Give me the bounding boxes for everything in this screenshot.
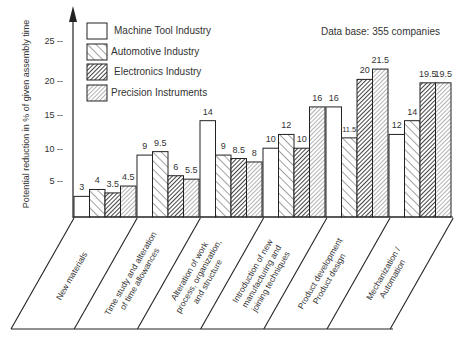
legend-swatch [87, 64, 107, 80]
value-label: 12 [392, 120, 402, 130]
category-label: Product developmentProduct design [296, 236, 354, 316]
bar-group: 1498.58 [200, 107, 262, 217]
value-label: 9 [221, 141, 226, 151]
bar [389, 134, 405, 217]
bar-group: 10121016 [263, 93, 325, 217]
bar [153, 152, 169, 217]
value-label: 4 [95, 175, 100, 185]
bar [168, 176, 184, 217]
bar [294, 148, 310, 217]
bar [216, 155, 232, 217]
bar [184, 179, 200, 217]
y-tick-label: 20 -- [44, 76, 63, 86]
value-label: 12 [281, 120, 291, 130]
legend: Machine Tool IndustryAutomotive Industry… [87, 23, 211, 101]
value-label: 10 [266, 134, 276, 144]
value-label: 16 [329, 93, 339, 103]
y-axis: 5 --10 --15 --20 --25 -- [44, 6, 77, 218]
category-label: Mechanization /Automation [364, 245, 412, 307]
bar [121, 186, 137, 217]
bar [405, 121, 421, 217]
bar [279, 134, 295, 217]
value-label: 5.5 [185, 165, 198, 175]
y-tick-label: 15 -- [44, 110, 63, 120]
bar-groups: 343.54.599.565.51498.58101210161611.5202… [73, 55, 453, 217]
bar [247, 162, 263, 217]
value-label: 8.5 [232, 145, 245, 155]
bar [373, 69, 389, 217]
bar [310, 107, 326, 217]
value-label: 21.5 [371, 55, 389, 65]
bar-group: 121419.519.5 [389, 69, 452, 217]
value-label: 6 [173, 162, 178, 172]
value-label: 4.5 [122, 172, 135, 182]
band-divider [11, 218, 74, 329]
bar-group: 99.565.5 [137, 138, 199, 217]
legend-swatch [87, 23, 107, 39]
bar [357, 79, 373, 217]
value-label: 9.5 [154, 138, 167, 148]
category-label: Introduction of newmanufacturing andjoin… [230, 237, 293, 315]
bar [200, 121, 216, 217]
category-band: New materialsTime study and alterationof… [11, 218, 453, 329]
legend-label: Machine Tool Industry [114, 25, 211, 36]
legend-label: Automotive Industry [111, 46, 199, 57]
legend-item: Machine Tool Industry [87, 23, 211, 39]
bar [105, 193, 121, 217]
category-label: New materials [54, 250, 90, 302]
y-axis-label: Potential reduction in % of given assemb… [21, 20, 31, 209]
bar [137, 155, 153, 217]
value-label: 19.5 [434, 69, 452, 79]
value-label: 10 [297, 134, 307, 144]
legend-item: Electronics Industry [87, 64, 201, 80]
y-tick-label: 5 -- [50, 176, 64, 186]
value-label: 11.5 [342, 125, 356, 134]
database-annotation: Data base: 355 companies [321, 26, 440, 37]
arrow-up-icon [69, 6, 77, 22]
category-label: Time study and alterationof time allowan… [102, 230, 167, 323]
bar [74, 196, 90, 217]
legend-label: Electronics Industry [114, 66, 201, 77]
legend-item: Automotive Industry [87, 44, 199, 60]
value-label: 14 [203, 107, 213, 117]
value-label: 3 [79, 182, 84, 192]
y-tick-label: 25 -- [44, 36, 63, 46]
legend-item: Precision Instruments [87, 85, 207, 101]
y-tick-label: 10 -- [44, 144, 63, 154]
bar [90, 189, 106, 217]
value-label: 20 [360, 65, 370, 75]
value-label: 3.5 [106, 179, 119, 189]
bar-chart: 5 --10 --15 --20 --25 -- Potential reduc… [0, 0, 467, 342]
bar-group: 1611.52021.5 [326, 55, 389, 217]
value-label: 16 [312, 93, 322, 103]
bar [231, 159, 247, 217]
value-label: 14 [407, 107, 417, 117]
bar [342, 138, 358, 217]
legend-swatch [87, 85, 107, 101]
legend-label: Precision Instruments [111, 87, 207, 98]
bar [420, 83, 436, 217]
value-label: 9 [142, 141, 147, 151]
category-label: Alteration of workprocess, organization,… [164, 232, 232, 320]
value-label: 8 [252, 148, 257, 158]
bar [263, 148, 279, 217]
legend-swatch [87, 44, 107, 60]
bar [326, 107, 342, 217]
bar-group: 343.54.5 [74, 172, 136, 217]
bar [436, 83, 452, 217]
